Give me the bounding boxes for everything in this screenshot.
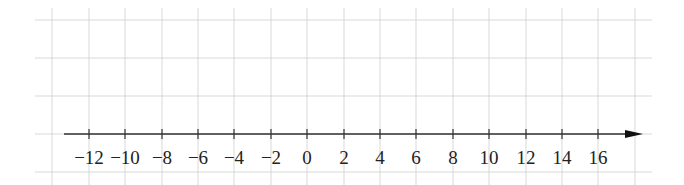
tick-label: −10 <box>110 147 140 168</box>
tick-label: −2 <box>261 147 281 168</box>
tick-label: −12 <box>74 147 104 168</box>
tick-label: 10 <box>480 147 499 168</box>
tick-label: −6 <box>188 147 208 168</box>
tick-label: 14 <box>553 147 573 168</box>
tick-label: 4 <box>375 147 385 168</box>
tick-label: 6 <box>411 147 421 168</box>
number-line-figure: −12−10−8−6−4−20246810121416 <box>0 0 684 185</box>
number-line-svg: −12−10−8−6−4−20246810121416 <box>0 0 684 185</box>
tick-label: −4 <box>224 147 245 168</box>
tick-label: 16 <box>589 147 608 168</box>
tick-label: 8 <box>448 147 458 168</box>
tick-label: −8 <box>152 147 172 168</box>
arrow-right-icon <box>625 130 643 138</box>
tick-labels: −12−10−8−6−4−20246810121416 <box>74 147 607 168</box>
tick-label: 0 <box>302 147 312 168</box>
tick-label: 12 <box>517 147 536 168</box>
tick-label: 2 <box>339 147 349 168</box>
number-axis <box>64 130 643 138</box>
